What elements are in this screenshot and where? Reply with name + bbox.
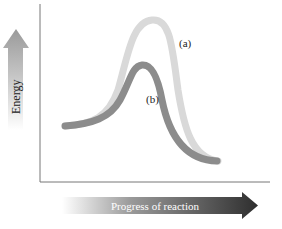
curve-a-label: (a) bbox=[179, 37, 192, 50]
curve-b-label: (b) bbox=[146, 93, 159, 106]
energy-diagram: Energy (a) (b) Progress of reaction bbox=[0, 0, 282, 229]
y-axis-label: Energy bbox=[9, 80, 23, 114]
curve-a bbox=[66, 20, 218, 161]
x-axis-label: Progress of reaction bbox=[111, 200, 199, 212]
